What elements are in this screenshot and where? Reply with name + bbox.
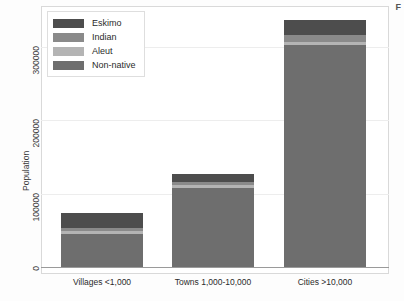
bar-segment [172,182,254,185]
y-tick-label: 300000 [31,46,41,82]
legend-item-indian: Indian [53,30,136,44]
y-axis-title: Population [21,151,31,191]
legend-swatch-icon [53,33,84,42]
bar-segment [284,35,366,42]
legend: EskimoIndianAleutNon-native [47,11,145,77]
bar-segment [284,45,366,267]
x-tick-label: Cities >10,000 [265,277,385,287]
bar-segment [61,231,143,234]
bar-1 [172,174,254,267]
legend-swatch-icon [53,61,84,70]
bar-0 [61,213,143,267]
legend-swatch-icon [53,47,84,56]
bar-segment [284,20,366,35]
y-tick-label: 0 [31,266,41,301]
bar-segment [61,228,143,231]
legend-item-aleut: Aleut [53,44,136,58]
bar-2 [284,20,366,267]
legend-item-eskimo: Eskimo [53,16,136,30]
x-tick-label: Villages <1,000 [42,277,162,287]
x-axis-line [41,267,389,268]
y-tick-label: 200000 [31,119,41,155]
chart-canvas: Population 0100000200000300000 Villages … [0,0,404,301]
legend-item-non-native: Non-native [53,58,136,72]
bar-segment [284,42,366,46]
corner-glyph: F [396,2,402,12]
x-tick-label: Towns 1,000-10,000 [153,277,273,287]
bar-segment [172,185,254,188]
bar-segment [172,174,254,182]
legend-label: Eskimo [92,19,122,28]
bar-segment [61,213,143,228]
bar-segment [61,234,143,267]
legend-label: Indian [92,33,117,42]
legend-swatch-icon [53,19,84,28]
bar-segment [172,188,254,267]
legend-label: Aleut [92,47,113,56]
y-tick-label: 100000 [31,193,41,229]
legend-label: Non-native [92,61,136,70]
